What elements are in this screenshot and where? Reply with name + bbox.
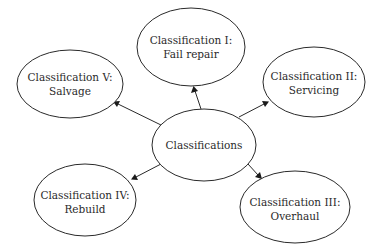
edge-to-overhaul <box>248 164 258 175</box>
arrowhead-fail-repair <box>191 86 198 93</box>
classification-diagram: Classification I: Fail repair Classifica… <box>0 0 382 251</box>
node-classifications-center: Classifications <box>152 109 256 181</box>
node-label-line-2: Rebuild <box>64 203 105 215</box>
node-label-line-1: Classification I: <box>150 34 233 46</box>
node-label-line-1: Classification IV: <box>40 189 129 201</box>
node-label-line-1: Classification V: <box>28 71 113 83</box>
node-fail-repair: Classification I: Fail repair <box>137 8 245 86</box>
edge-to-servicing <box>239 104 264 117</box>
edge-to-rebuild <box>136 164 161 177</box>
node-ellipse <box>263 47 365 117</box>
node-ellipse <box>17 50 123 118</box>
node-label-line-2: Salvage <box>49 85 91 97</box>
node-label-line-1: Classification III: <box>250 196 341 208</box>
node-label-line-2: Servicing <box>289 84 340 96</box>
node-label-line-1: Classification II: <box>271 70 358 82</box>
node-ellipse <box>137 8 245 86</box>
node-salvage: Classification V: Salvage <box>17 50 123 118</box>
edge-to-salvage <box>118 104 161 125</box>
edge-to-fail-repair <box>195 91 201 109</box>
node-label-line-2: Overhaul <box>271 210 321 222</box>
node-overhaul: Classification III: Overhaul <box>240 171 350 243</box>
node-label-line-2: Fail repair <box>163 48 219 60</box>
center-label: Classifications <box>166 139 243 151</box>
node-servicing: Classification II: Servicing <box>263 47 365 117</box>
node-rebuild: Classification IV: Rebuild <box>34 164 136 236</box>
